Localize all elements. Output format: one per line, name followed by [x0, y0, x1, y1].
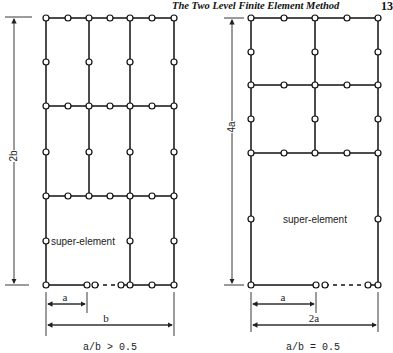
left-nodes: [43, 15, 177, 288]
left-dim-b-label: b: [103, 312, 109, 324]
left-dim-a-label: a: [63, 291, 68, 303]
right-dim-2a-label: 2a: [309, 312, 320, 324]
right-caption: a/b = 0.5: [286, 342, 340, 353]
left-super-element-label: super-element: [51, 236, 115, 247]
right-height-label: 4a: [226, 121, 237, 133]
left-height-label: 2b: [8, 150, 19, 162]
left-caption: a/b > 0.5: [83, 342, 137, 353]
right-height-dimension: [224, 18, 244, 285]
right-dim-a-label: a: [281, 291, 286, 303]
right-super-element-label: super-element: [283, 214, 347, 225]
